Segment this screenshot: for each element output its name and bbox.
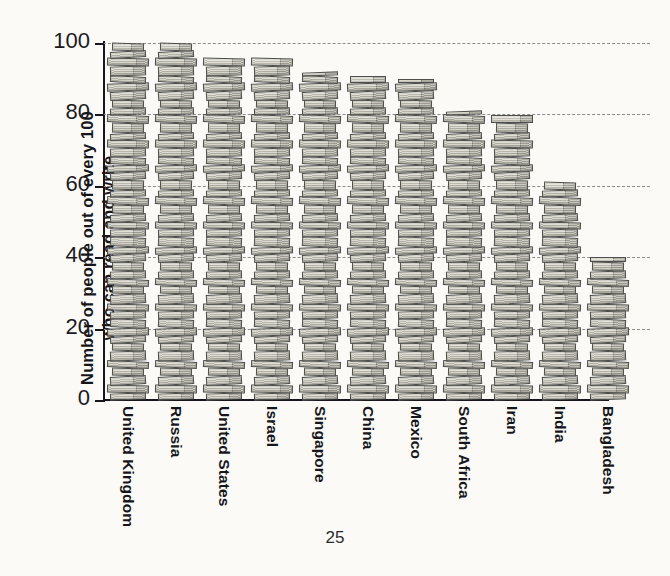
book-unit bbox=[254, 148, 290, 157]
book-cover bbox=[350, 156, 386, 166]
book-cover bbox=[158, 65, 194, 76]
book-unit bbox=[398, 294, 434, 304]
book-unit bbox=[542, 205, 578, 214]
book-spine bbox=[229, 294, 241, 303]
book-spine bbox=[376, 198, 388, 205]
book-spine bbox=[232, 116, 244, 123]
book-unit bbox=[302, 91, 338, 100]
book-spine bbox=[229, 66, 241, 74]
book-spine bbox=[328, 141, 340, 147]
book-spine bbox=[565, 238, 577, 247]
book-unit bbox=[110, 222, 146, 229]
book-spine bbox=[565, 271, 577, 277]
book-cover bbox=[206, 318, 242, 329]
book-unit bbox=[302, 115, 338, 123]
book-spine bbox=[277, 77, 289, 83]
book-cover bbox=[446, 375, 482, 386]
book-unit bbox=[590, 304, 626, 311]
book-cover bbox=[446, 156, 482, 166]
book-spine bbox=[419, 101, 431, 107]
book-unit bbox=[446, 115, 482, 123]
book-cover bbox=[448, 286, 480, 295]
book-cover bbox=[256, 368, 288, 377]
book-unit bbox=[110, 100, 146, 108]
book-unit bbox=[110, 157, 146, 165]
book-spine bbox=[277, 91, 289, 99]
book-unit bbox=[206, 351, 242, 361]
book-unit bbox=[542, 254, 578, 262]
book-unit bbox=[350, 222, 386, 229]
book-spine bbox=[323, 101, 335, 107]
book-cover bbox=[496, 205, 528, 215]
book-cover bbox=[208, 262, 240, 272]
book-spine bbox=[229, 254, 241, 261]
book-cover bbox=[350, 375, 386, 386]
book-unit bbox=[110, 279, 146, 286]
book-unit bbox=[398, 361, 434, 368]
book-spine bbox=[424, 83, 436, 89]
book-cover bbox=[350, 270, 386, 279]
book-cover bbox=[350, 90, 386, 101]
book-unit bbox=[494, 222, 530, 229]
book-unit bbox=[446, 393, 482, 400]
book-unit bbox=[446, 385, 482, 393]
x-axis-label-slot: Israel bbox=[254, 406, 290, 536]
book-spine bbox=[472, 386, 484, 392]
book-spine bbox=[277, 172, 289, 179]
book-cover bbox=[542, 293, 579, 305]
book-spine bbox=[373, 91, 385, 99]
book-cover bbox=[206, 270, 242, 279]
book-cover bbox=[208, 286, 240, 295]
book-unit bbox=[542, 319, 578, 328]
book-spine bbox=[227, 287, 239, 293]
book-spine bbox=[229, 393, 241, 398]
book-unit bbox=[110, 165, 146, 172]
book-unit bbox=[302, 262, 338, 271]
book-unit bbox=[206, 100, 242, 108]
book-cover bbox=[206, 228, 242, 237]
book-cover bbox=[110, 189, 146, 197]
book-spine bbox=[517, 172, 529, 179]
book-cover bbox=[110, 147, 146, 157]
x-axis-label-israel: Israel bbox=[263, 406, 281, 447]
book-cover bbox=[158, 107, 194, 115]
book-cover bbox=[158, 236, 194, 248]
book-unit bbox=[158, 351, 194, 361]
book-unit bbox=[494, 140, 530, 148]
book-cover bbox=[446, 110, 482, 115]
book-spine bbox=[179, 181, 191, 189]
book-spine bbox=[469, 172, 481, 179]
book-spine bbox=[563, 183, 575, 189]
book-cover bbox=[254, 213, 290, 223]
book-unit bbox=[494, 294, 530, 304]
book-unit bbox=[302, 229, 338, 237]
book-unit bbox=[110, 148, 146, 157]
book-unit bbox=[110, 66, 146, 76]
book-cover bbox=[110, 253, 146, 263]
book-cover bbox=[110, 213, 146, 223]
book-spine bbox=[373, 311, 385, 317]
book-spine bbox=[376, 280, 388, 286]
book-unit bbox=[350, 361, 386, 368]
book-spine bbox=[421, 351, 433, 359]
book-spine bbox=[371, 101, 383, 107]
book-spine bbox=[280, 247, 292, 252]
book-unit bbox=[590, 311, 626, 319]
book-unit bbox=[494, 237, 530, 247]
book-unit bbox=[398, 133, 434, 140]
book-spine bbox=[280, 223, 292, 228]
book-spine bbox=[472, 223, 484, 228]
book-unit bbox=[302, 271, 338, 279]
book-spine bbox=[469, 311, 481, 317]
x-axis-label-slot: Mexico bbox=[398, 406, 434, 536]
book-spine bbox=[371, 263, 383, 270]
book-unit bbox=[206, 336, 242, 343]
book-spine bbox=[421, 91, 433, 99]
book-unit bbox=[302, 205, 338, 214]
book-spine bbox=[520, 280, 532, 286]
x-axis-label-slot: Singapore bbox=[302, 406, 338, 536]
book-spine bbox=[467, 287, 479, 293]
book-unit bbox=[158, 319, 194, 328]
book-unit bbox=[590, 336, 626, 343]
book-spine bbox=[229, 336, 241, 342]
